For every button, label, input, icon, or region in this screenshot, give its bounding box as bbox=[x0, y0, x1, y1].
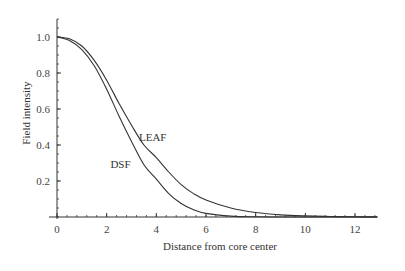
y-tick-label: 0.6 bbox=[36, 103, 50, 115]
x-axis-label: Distance from core center bbox=[163, 240, 277, 252]
x-tick-label: 2 bbox=[104, 223, 110, 235]
x-tick-label: 8 bbox=[253, 223, 259, 235]
series-label-dsf: DSF bbox=[110, 158, 130, 170]
series-label-leaf: LEAF bbox=[139, 131, 167, 143]
y-axis-label: Field intensity bbox=[20, 81, 32, 145]
series-lines bbox=[57, 37, 377, 217]
x-tick-label: 12 bbox=[350, 223, 361, 235]
y-tick-label: 0.2 bbox=[36, 175, 50, 187]
line-chart: 0246810120.20.40.60.81.0 LEAFDSF Distanc… bbox=[0, 0, 405, 271]
x-tick-label: 0 bbox=[54, 223, 60, 235]
x-tick-label: 4 bbox=[154, 223, 160, 235]
x-tick-label: 10 bbox=[300, 223, 312, 235]
series-labels: LEAFDSF bbox=[110, 131, 166, 170]
y-tick-label: 1.0 bbox=[36, 31, 50, 43]
series-line-leaf bbox=[57, 37, 377, 217]
y-tick-label: 0.4 bbox=[36, 139, 50, 151]
y-tick-label: 0.8 bbox=[36, 67, 50, 79]
x-tick-label: 6 bbox=[203, 223, 209, 235]
series-line-dsf bbox=[57, 37, 377, 217]
